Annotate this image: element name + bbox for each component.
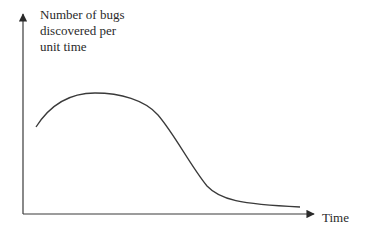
y-label-line-2: discovered per: [40, 23, 180, 39]
x-axis-label: Time: [322, 210, 349, 226]
y-label-line-3: unit time: [40, 39, 180, 55]
y-axis-label: Number of bugs discovered per unit time: [40, 7, 180, 55]
bug-discovery-curve: [36, 93, 300, 207]
y-label-line-1: Number of bugs: [40, 7, 180, 23]
